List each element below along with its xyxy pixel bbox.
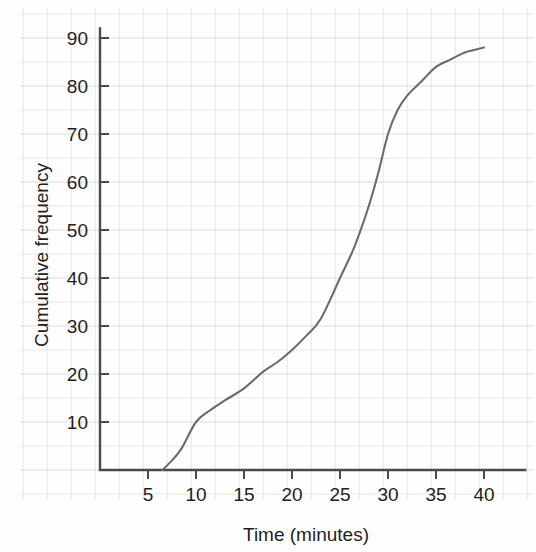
x-tick-label-25: 25 (329, 484, 350, 505)
y-tick-label-20: 20 (67, 364, 88, 385)
x-tick-label-40: 40 (473, 484, 494, 505)
x-tick-label-5: 5 (143, 484, 154, 505)
chart-canvas: 510152025303540 102030405060708090 Time … (0, 0, 536, 552)
x-tick-label-35: 35 (425, 484, 446, 505)
cumulative-frequency-chart: 510152025303540 102030405060708090 Time … (0, 0, 536, 552)
y-tick-label-80: 80 (67, 76, 88, 97)
y-tick-label-60: 60 (67, 172, 88, 193)
y-tick-label-50: 50 (67, 220, 88, 241)
x-tick-label-10: 10 (185, 484, 206, 505)
y-tick-label-30: 30 (67, 316, 88, 337)
x-axis-title: Time (minutes) (243, 524, 369, 545)
y-tick-label-70: 70 (67, 124, 88, 145)
y-tick-label-10: 10 (67, 412, 88, 433)
x-tick-label-15: 15 (233, 484, 254, 505)
y-tick-label-90: 90 (67, 28, 88, 49)
y-axis-tick-labels: 102030405060708090 (67, 28, 88, 433)
x-tick-label-30: 30 (377, 484, 398, 505)
y-axis-title: Cumulative frequency (31, 163, 52, 347)
y-tick-label-40: 40 (67, 268, 88, 289)
x-tick-label-20: 20 (281, 484, 302, 505)
